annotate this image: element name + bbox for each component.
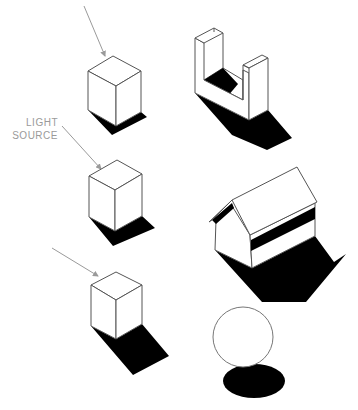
light-and-shadow-diagram: [0, 0, 358, 410]
sphere-shadow: [223, 364, 285, 398]
light-arrow-3: [52, 248, 98, 276]
light-source-label-line2: SOURCE: [8, 129, 58, 142]
u-block: [195, 28, 292, 150]
cube-1: [88, 56, 147, 135]
light-source-label-line1: LIGHT: [8, 116, 58, 129]
light-arrow-1: [84, 6, 105, 56]
light-source-label: LIGHT SOURCE: [8, 116, 58, 142]
house: [209, 167, 346, 302]
sphere: [213, 307, 285, 398]
light-arrow-2: [62, 126, 101, 169]
cube-2: [89, 160, 155, 246]
cube-3: [91, 272, 169, 375]
